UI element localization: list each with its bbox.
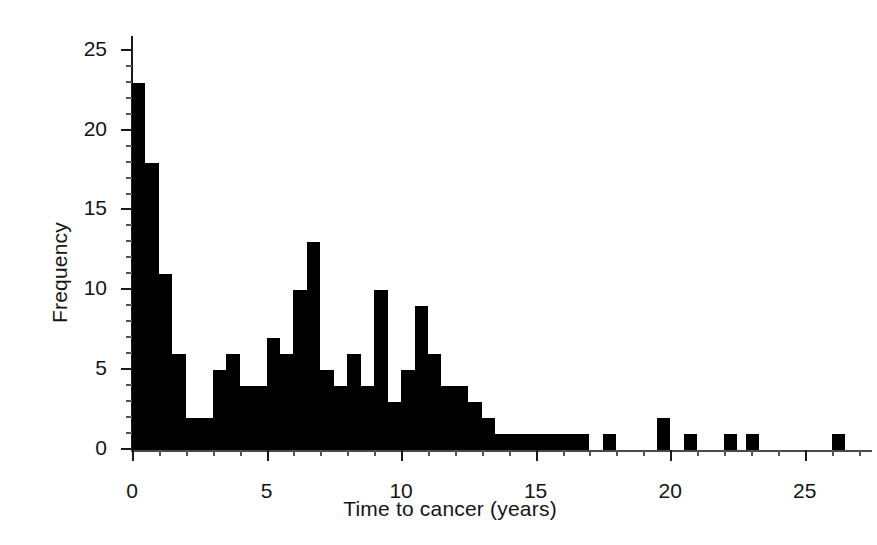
x-tick-minor [455,450,457,456]
histogram-figure: Frequency 0510152025 0510152025 Time to … [0,0,877,545]
x-tick-minor [643,450,645,456]
histogram-bar [724,434,737,450]
histogram-bar [280,354,293,450]
x-axis-label: Time to cancer (years) [100,497,800,521]
x-tick-minor [563,450,565,456]
x-tick-minor [778,450,780,456]
histogram-bar [657,418,670,450]
y-tick-major: 15 [121,208,132,210]
histogram-bar [253,386,266,450]
histogram-bar [415,306,428,450]
histogram-bar [186,418,199,450]
histogram-bar [213,370,226,450]
x-tick-minor [374,450,376,456]
y-tick-label: 15 [84,196,107,220]
histogram-bar [832,434,845,450]
x-tick-minor [293,450,295,456]
histogram-bar [159,274,172,450]
x-tick-minor [159,450,161,456]
histogram-bar [563,434,576,450]
histogram-bar [145,163,158,450]
histogram-bar [132,83,145,450]
histogram-bar [482,418,495,450]
histogram-bar [522,434,535,450]
histogram-bar [374,290,387,450]
y-tick-major: 5 [121,368,132,370]
histogram-bar [388,402,401,450]
x-tick-minor [240,450,242,456]
plot-area: 0510152025 0510152025 [132,38,872,450]
y-tick-label: 0 [95,436,107,460]
histogram-bars [132,38,872,450]
x-tick-major: 15 [536,450,538,461]
histogram-bar [267,338,280,450]
histogram-bar [240,386,253,450]
histogram-bar [320,370,333,450]
histogram-bar [199,418,212,450]
x-axis-spine [131,450,872,452]
y-tick-major: 0 [121,448,132,450]
x-tick-minor [697,450,699,456]
x-tick-minor [320,450,322,456]
x-tick-minor [832,450,834,456]
histogram-bar [307,242,320,450]
histogram-bar [468,402,481,450]
x-tick-minor [428,450,430,456]
x-tick-minor [347,450,349,456]
x-tick-major: 20 [670,450,672,461]
x-tick-minor [751,450,753,456]
x-tick-minor [616,450,618,456]
y-tick-major: 20 [121,129,132,131]
histogram-bar [603,434,616,450]
histogram-bar [172,354,185,450]
histogram-bar [509,434,522,450]
y-tick-major: 10 [121,288,132,290]
x-tick-minor [186,450,188,456]
histogram-bar [684,434,697,450]
histogram-bar [428,354,441,450]
histogram-bar [293,290,306,450]
histogram-bar [226,354,239,450]
x-tick-minor [509,450,511,456]
y-tick-label: 25 [84,37,107,61]
histogram-bar [334,386,347,450]
histogram-bar [576,434,589,450]
x-tick-major: 10 [401,450,403,461]
y-tick-major: 25 [121,49,132,51]
x-tick-minor [482,450,484,456]
histogram-bar [549,434,562,450]
y-tick-label: 20 [84,117,107,141]
y-tick-label: 5 [95,356,107,380]
histogram-bar [347,354,360,450]
histogram-bar [536,434,549,450]
y-tick-label: 10 [84,276,107,300]
histogram-bar [746,434,759,450]
histogram-bar [361,386,374,450]
histogram-bar [401,370,414,450]
x-tick-major: 5 [267,450,269,461]
x-tick-minor [589,450,591,456]
x-tick-minor [859,450,861,456]
histogram-bar [495,434,508,450]
x-tick-minor [724,450,726,456]
x-tick-minor [213,450,215,456]
x-tick-major: 0 [132,450,134,461]
x-tick-major: 25 [805,450,807,461]
y-axis-label: Frequency [30,0,90,545]
histogram-bar [455,386,468,450]
histogram-bar [441,386,454,450]
